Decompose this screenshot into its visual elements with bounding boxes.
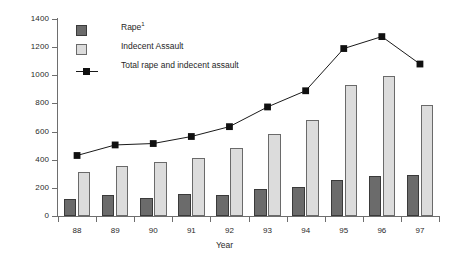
x-tick-mark bbox=[58, 217, 59, 222]
y-tick-label: 1200 bbox=[0, 43, 49, 51]
y-tick-label: 1000 bbox=[0, 71, 49, 79]
x-tick-mark bbox=[210, 217, 211, 222]
x-tick-mark bbox=[249, 217, 250, 222]
x-tick-label: 97 bbox=[403, 226, 437, 235]
legend-label-total: Total rape and indecent assault bbox=[121, 60, 251, 71]
y-tick-label: 200 bbox=[0, 184, 49, 192]
x-tick-mark bbox=[325, 217, 326, 222]
total-marker-95 bbox=[340, 45, 347, 52]
x-tick-label: 96 bbox=[365, 226, 399, 235]
y-tick-label: 800 bbox=[0, 99, 49, 107]
y-tick-label: 400 bbox=[0, 156, 49, 164]
x-tick-mark bbox=[172, 217, 173, 222]
x-tick-label: 88 bbox=[60, 226, 94, 235]
total-marker-93 bbox=[264, 104, 271, 111]
total-marker-89 bbox=[112, 142, 119, 149]
x-tick-label: 91 bbox=[174, 226, 208, 235]
total-marker-92 bbox=[226, 123, 233, 130]
legend-label-rape: Rape1 bbox=[121, 22, 145, 33]
total-line-series bbox=[58, 19, 439, 216]
x-tick-label: 89 bbox=[98, 226, 132, 235]
x-tick-mark bbox=[401, 217, 402, 222]
legend-footnote-marker: 1 bbox=[141, 21, 144, 27]
x-tick-mark bbox=[363, 217, 364, 222]
line-with-square-marker-icon bbox=[76, 63, 98, 74]
total-marker-90 bbox=[150, 140, 157, 147]
x-axis-title: Year bbox=[0, 240, 449, 250]
x-tick-label: 95 bbox=[327, 226, 361, 235]
y-tick-label: 1400 bbox=[0, 15, 49, 23]
total-marker-97 bbox=[417, 61, 424, 68]
total-marker-91 bbox=[188, 133, 195, 140]
x-tick-mark bbox=[439, 217, 440, 222]
x-tick-mark bbox=[134, 217, 135, 222]
x-tick-label: 93 bbox=[251, 226, 285, 235]
total-marker-88 bbox=[74, 152, 81, 159]
y-tick-label: 0 bbox=[0, 212, 49, 220]
x-tick-label: 92 bbox=[212, 226, 246, 235]
total-line-path bbox=[77, 37, 420, 156]
x-tick-mark bbox=[96, 217, 97, 222]
y-tick-label: 600 bbox=[0, 128, 49, 136]
chart-container: 0200400600800100012001400 88899091929394… bbox=[0, 0, 449, 262]
x-tick-mark bbox=[287, 217, 288, 222]
total-marker-94 bbox=[302, 87, 309, 94]
light-square-swatch-icon bbox=[76, 44, 87, 55]
x-tick-label: 94 bbox=[289, 226, 323, 235]
legend-label-rape-text: Rape bbox=[121, 22, 141, 32]
dark-square-swatch-icon bbox=[76, 25, 87, 36]
legend-label-indecent-assault: Indecent Assault bbox=[121, 41, 183, 52]
total-marker-96 bbox=[378, 33, 385, 40]
x-tick-label: 90 bbox=[136, 226, 170, 235]
